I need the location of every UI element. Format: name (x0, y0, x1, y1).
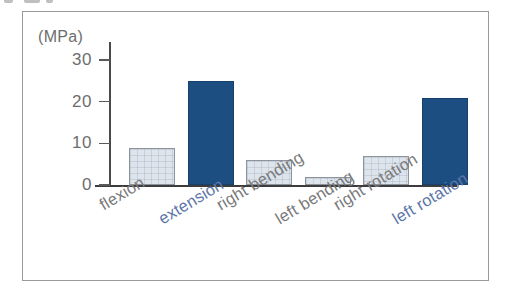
bars-layer (0, 0, 512, 185)
bar-extension (188, 81, 234, 185)
x-axis-line (95, 185, 457, 187)
bar-chart: (MPa) 3020100 flexionextensionright bend… (0, 0, 512, 295)
